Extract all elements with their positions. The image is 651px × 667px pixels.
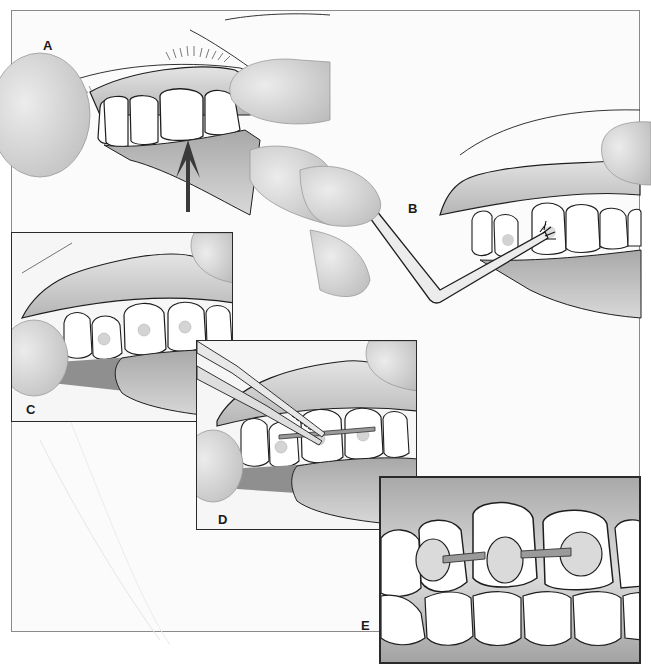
panel-e-illustration (381, 478, 641, 664)
panel-label-a: A (43, 39, 52, 52)
applicator-handle (370, 210, 548, 303)
panel-label-d: D (218, 513, 227, 526)
panel-b-drawing (300, 110, 651, 318)
panel-label-c: C (26, 403, 35, 416)
panel-e (379, 476, 641, 664)
panel-label-b: B (408, 202, 417, 215)
panel-label-e: E (361, 619, 370, 632)
figure-stage: C D (0, 0, 651, 667)
